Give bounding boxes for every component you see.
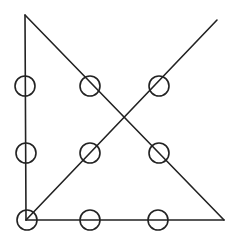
dot-r0-c2 <box>149 76 169 96</box>
dot-r0-c1 <box>80 76 100 96</box>
vertical-line <box>25 15 26 220</box>
nine-dots-diagram <box>0 0 235 242</box>
ascending-diagonal <box>26 20 217 220</box>
solution-lines <box>25 15 224 220</box>
